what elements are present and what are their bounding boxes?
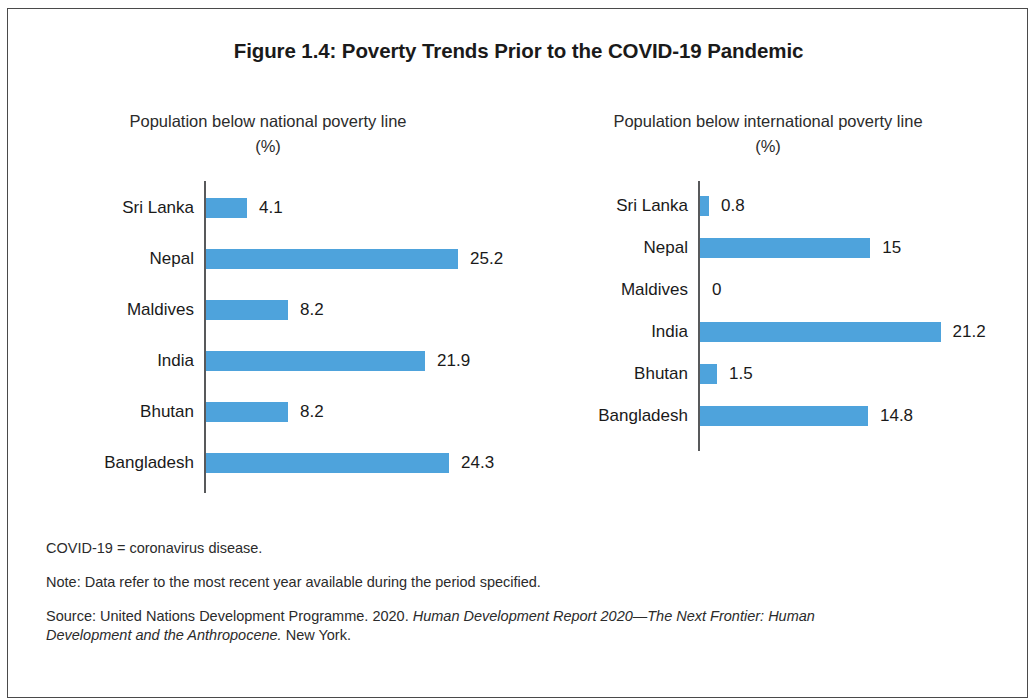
bar-value-label: 24.3 xyxy=(461,453,494,473)
bar-row: Sri Lanka0.8 xyxy=(518,191,1018,221)
bar-row: Maldives0 xyxy=(518,275,1018,305)
bar-value-label: 1.5 xyxy=(729,364,753,384)
category-label: Bangladesh xyxy=(28,453,194,473)
bar-row: Nepal15 xyxy=(518,233,1018,263)
bar xyxy=(206,300,288,320)
panel-international-subtitle: Population below international poverty l… xyxy=(518,109,1018,159)
bar xyxy=(700,364,717,384)
bar xyxy=(700,196,709,216)
category-label: Bhutan xyxy=(28,402,194,422)
data-note: Note: Data refer to the most recent year… xyxy=(46,573,836,592)
bar xyxy=(700,406,868,426)
category-label: Bangladesh xyxy=(518,406,688,426)
bar xyxy=(206,198,247,218)
bar xyxy=(700,238,870,258)
bar-value-label: 25.2 xyxy=(470,249,503,269)
figure-frame: Figure 1.4: Poverty Trends Prior to the … xyxy=(7,8,1028,698)
source-prefix: Source: United Nations Development Progr… xyxy=(46,608,413,624)
y-axis-line-national xyxy=(204,181,206,493)
bar-value-label: 14.8 xyxy=(880,406,913,426)
category-label: Sri Lanka xyxy=(518,196,688,216)
chart-national-poverty: Sri Lanka4.1Nepal25.2Maldives8.2India21.… xyxy=(28,181,508,493)
category-label: Maldives xyxy=(28,300,194,320)
source-note: Source: United Nations Development Progr… xyxy=(46,607,836,645)
bar xyxy=(206,402,288,422)
category-label: India xyxy=(518,322,688,342)
footnotes: COVID-19 = coronavirus disease. Note: Da… xyxy=(46,539,836,645)
panel-national-poverty: Population below national poverty line (… xyxy=(28,109,508,493)
bar-value-label: 15 xyxy=(882,238,901,258)
bar-value-label: 4.1 xyxy=(259,198,283,218)
category-label: Nepal xyxy=(518,238,688,258)
bar-value-label: 8.2 xyxy=(300,402,324,422)
bar-row: India21.9 xyxy=(28,346,508,376)
bar-row: India21.2 xyxy=(518,317,1018,347)
bar-row: Maldives8.2 xyxy=(28,295,508,325)
category-label: Bhutan xyxy=(518,364,688,384)
bar-value-label: 0.8 xyxy=(721,196,745,216)
bar-row: Bhutan8.2 xyxy=(28,397,508,427)
chart-international-poverty: Sri Lanka0.8Nepal15Maldives0India21.2Bhu… xyxy=(518,181,1018,451)
bar-value-label: 8.2 xyxy=(300,300,324,320)
bar-value-label: 21.9 xyxy=(437,351,470,371)
panel-national-subtitle: Population below national poverty line (… xyxy=(28,109,508,159)
source-suffix: New York. xyxy=(282,627,351,643)
bar-row: Bangladesh14.8 xyxy=(518,401,1018,431)
category-label: Sri Lanka xyxy=(28,198,194,218)
panel-international-poverty: Population below international poverty l… xyxy=(518,109,1018,451)
bar xyxy=(206,249,458,269)
abbreviation-note: COVID-19 = coronavirus disease. xyxy=(46,539,836,558)
bar-row: Sri Lanka4.1 xyxy=(28,193,508,223)
bar-row: Nepal25.2 xyxy=(28,244,508,274)
bar-value-label: 0 xyxy=(712,280,721,300)
bar xyxy=(206,351,425,371)
bar xyxy=(700,322,941,342)
category-label: Nepal xyxy=(28,249,194,269)
category-label: India xyxy=(28,351,194,371)
bar xyxy=(206,453,449,473)
figure-title: Figure 1.4: Poverty Trends Prior to the … xyxy=(8,39,1029,63)
bar-row: Bangladesh24.3 xyxy=(28,448,508,478)
category-label: Maldives xyxy=(518,280,688,300)
bar-row: Bhutan1.5 xyxy=(518,359,1018,389)
bar-value-label: 21.2 xyxy=(953,322,986,342)
